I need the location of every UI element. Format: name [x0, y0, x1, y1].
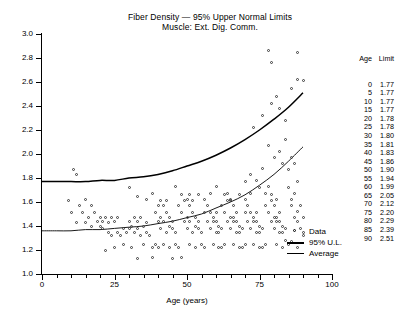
data-point: [264, 192, 267, 195]
data-point: [229, 227, 232, 230]
x-axis-tick-minor: [202, 275, 203, 278]
x-axis-tick-label: 75: [245, 281, 275, 289]
data-point: [267, 185, 270, 188]
data-point: [174, 243, 177, 246]
data-point: [154, 243, 157, 246]
data-point: [209, 227, 212, 230]
data-point: [284, 119, 287, 122]
y-axis-tick-label: 1.6: [0, 198, 33, 206]
data-point: [174, 185, 177, 188]
legend-label: Data: [306, 226, 326, 237]
data-point: [136, 195, 139, 198]
legend-label: Average: [306, 248, 339, 259]
data-point: [238, 231, 241, 234]
data-point: [302, 216, 305, 219]
data-point: [261, 227, 264, 230]
data-point: [171, 220, 174, 223]
y-axis-tick: [36, 34, 41, 35]
data-point: [270, 61, 273, 64]
data-point: [261, 246, 264, 249]
data-point: [174, 231, 177, 234]
data-point: [157, 220, 160, 223]
x-axis-tick-minor: [318, 275, 319, 278]
data-point: [273, 227, 276, 230]
data-point: [244, 243, 247, 246]
data-point: [116, 216, 119, 219]
data-point: [151, 256, 154, 259]
data-point: [116, 231, 119, 234]
chart-subtitle: Muscle: Ext. Dig. Comm.: [0, 22, 420, 33]
data-point: [157, 204, 160, 207]
data-point: [151, 246, 154, 249]
table-header: Age Limit: [355, 55, 394, 64]
data-point: [241, 246, 244, 249]
y-axis-tick-label: 1.4: [0, 222, 33, 230]
data-point: [162, 243, 165, 246]
data-point: [232, 216, 235, 219]
data-point: [145, 231, 148, 234]
data-point: [90, 204, 93, 207]
reference-table: Age Limit 01.7751.77101.77151.77201.7825…: [355, 38, 394, 243]
data-point: [171, 227, 174, 230]
x-axis-tick-label: 50: [172, 281, 202, 289]
data-point: [264, 204, 267, 207]
legend-marker-thick-line: [286, 237, 306, 248]
data-point: [142, 243, 145, 246]
data-point: [191, 231, 194, 234]
data-point: [206, 220, 209, 223]
data-point: [290, 156, 293, 159]
data-point: [107, 231, 110, 234]
data-point: [299, 204, 302, 207]
data-point: [200, 231, 203, 234]
x-axis-tick-minor: [231, 275, 232, 278]
data-point: [197, 227, 200, 230]
y-axis-tick-label: 2.6: [0, 78, 33, 86]
data-point: [302, 79, 305, 82]
data-point: [244, 198, 247, 201]
chart-title: Fiber Density — 95% Upper Normal Limits: [0, 12, 420, 23]
legend-item: 95% U.L.: [286, 237, 342, 248]
y-axis-tick: [36, 154, 41, 155]
data-point: [293, 162, 296, 165]
y-axis-tick: [36, 274, 41, 275]
column-header-limit: Limit: [372, 55, 394, 64]
data-point: [145, 198, 148, 201]
y-axis-tick: [36, 58, 41, 59]
data-point: [226, 220, 229, 223]
data-point: [177, 204, 180, 207]
y-axis-tick-label: 1.2: [0, 246, 33, 254]
x-axis-tick-minor: [129, 275, 130, 278]
data-point: [87, 216, 90, 219]
x-axis-tick-minor: [173, 275, 174, 278]
data-point: [290, 87, 293, 90]
x-axis-title: Age (years): [42, 296, 332, 305]
table-cell-limit: 2.51: [372, 235, 394, 244]
x-axis-tick-minor: [289, 275, 290, 278]
data-point: [235, 220, 238, 223]
data-point: [296, 180, 299, 183]
legend-item: Data: [286, 226, 342, 237]
data-point: [119, 234, 122, 237]
data-point: [232, 243, 235, 246]
y-axis-tick-label: 2.0: [0, 150, 33, 158]
x-axis-tick-label: 25: [100, 281, 130, 289]
data-point: [293, 192, 296, 195]
table-cell-age: 90: [355, 235, 372, 244]
column-header-age: Age: [355, 55, 372, 64]
data-point: [270, 199, 273, 202]
x-axis-tick-minor: [71, 275, 72, 278]
data-point: [241, 227, 244, 230]
x-axis-tick-minor: [303, 275, 304, 278]
data-point: [290, 204, 293, 207]
legend-marker-thin-line: [286, 248, 306, 259]
x-axis-tick-minor: [216, 275, 217, 278]
data-point: [128, 186, 131, 189]
legend: Data95% U.L.Average: [286, 226, 342, 259]
x-axis-tick-minor: [57, 275, 58, 278]
x-axis-tick-minor: [86, 275, 87, 278]
data-point: [186, 216, 189, 219]
data-point: [252, 243, 255, 246]
legend-label: 95% U.L.: [306, 237, 342, 248]
legend-marker-open-circle: [286, 226, 306, 237]
data-point: [206, 204, 209, 207]
